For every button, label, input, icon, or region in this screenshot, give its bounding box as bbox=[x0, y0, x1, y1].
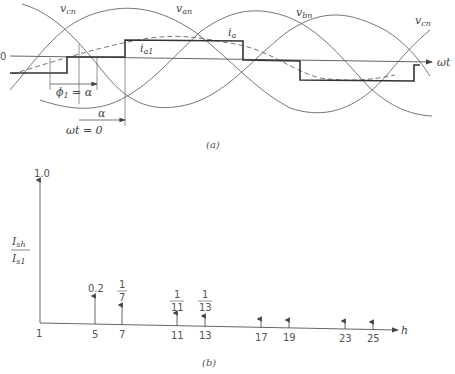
value-label-13-num: 1 bbox=[202, 289, 208, 300]
ia1-label: ia1 bbox=[140, 42, 153, 56]
tick-23: 23 bbox=[339, 333, 352, 344]
vcn-right-label: vcn bbox=[415, 14, 431, 28]
caption-a: (a) bbox=[206, 139, 220, 150]
y-label-num: Ish bbox=[11, 235, 26, 249]
wt-axis-label: ωt bbox=[437, 56, 451, 69]
wt0-label: ωt = 0 bbox=[66, 124, 103, 137]
value-label-11-num: 1 bbox=[174, 289, 180, 300]
y-top-value: 1.0 bbox=[34, 168, 50, 179]
waveform-panel: 0 vcn van vbn vcn ia ia1 ϕ1 = α α ωt = 0… bbox=[0, 2, 451, 150]
value-label-13-den: 13 bbox=[199, 302, 212, 313]
value-label-5: 0.2 bbox=[88, 283, 104, 294]
h-axis-label: h bbox=[401, 324, 408, 337]
tick-1: 1 bbox=[36, 328, 42, 339]
ia-label: ia bbox=[228, 26, 237, 40]
value-label-7-num: 1 bbox=[119, 279, 125, 290]
vbn-label: vbn bbox=[296, 6, 313, 20]
phi-alpha-label: ϕ1 = α bbox=[56, 86, 93, 100]
spectrum-panel: 1.0 Ish Is1 0.2 1 7 1 11 1 13 1 5 7 11 1… bbox=[11, 168, 408, 368]
tick-7: 7 bbox=[119, 329, 125, 340]
value-label-11-den: 11 bbox=[171, 302, 184, 313]
tick-13: 13 bbox=[199, 330, 212, 341]
vcn-left-label: vcn bbox=[60, 2, 76, 16]
ia1-fundamental-curve bbox=[12, 36, 395, 80]
y-label-den: Is1 bbox=[11, 252, 26, 266]
tick-25: 25 bbox=[367, 333, 380, 344]
harmonics-figure: 0 vcn van vbn vcn ia ia1 ϕ1 = α α ωt = 0… bbox=[0, 0, 455, 374]
ia-stepped-current bbox=[10, 40, 420, 81]
value-label-7-den: 7 bbox=[119, 292, 125, 303]
tick-19: 19 bbox=[283, 332, 296, 343]
vbn-curve bbox=[40, 11, 432, 116]
tick-5: 5 bbox=[92, 329, 98, 340]
van-label: van bbox=[176, 2, 192, 16]
tick-11: 11 bbox=[171, 330, 184, 341]
caption-b: (b) bbox=[202, 357, 216, 368]
tick-17: 17 bbox=[255, 332, 268, 343]
alpha-label: α bbox=[98, 107, 106, 120]
zero-label: 0 bbox=[0, 51, 6, 62]
